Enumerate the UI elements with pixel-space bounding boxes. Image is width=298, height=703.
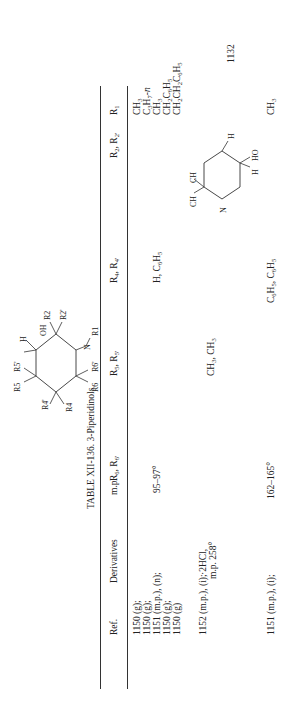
label-r4prime: R4'	[41, 399, 50, 410]
row3-r4: H, C6H5	[152, 252, 163, 283]
row5-ref: 1150 (g)	[172, 603, 183, 635]
row6-struct-ch3-h: CH	[189, 172, 198, 183]
row6-r5: CH3, CH3	[206, 338, 217, 376]
table-title: TABLE XII-136. 3-Piperidinols	[86, 388, 97, 509]
row6-ref: 1152 (m.p.), (i);	[198, 574, 209, 635]
label-r5: R5	[13, 383, 22, 392]
header-r4: R4, R4'	[109, 258, 120, 283]
top-rule	[100, 86, 101, 689]
row6-struct-h-left: H	[251, 169, 260, 175]
label-r2prime: R2'	[59, 309, 68, 320]
header-derivatives: Derivatives	[109, 539, 120, 583]
row6-struct-ch3-top: CH	[189, 196, 198, 207]
label-r1: R1	[91, 327, 100, 336]
label-r4: R4	[65, 403, 74, 412]
row7-ref: 1151 (m.p.), (i);	[266, 574, 277, 635]
label-h: H	[19, 336, 28, 342]
row7-r1: CH3	[266, 99, 277, 115]
row7-mp: 162–165°	[266, 462, 277, 499]
row6-struct-ho: HO	[251, 149, 260, 161]
row5-r1: CH2CH2C6H5	[172, 62, 183, 115]
page-number: 1132	[226, 44, 237, 63]
header-rule	[127, 86, 128, 689]
row6-derivative-mp: m.p. 258°	[208, 542, 219, 579]
row3-mp: 95–97°	[152, 465, 163, 493]
header-r5: R5, R5'	[109, 351, 120, 376]
header-mp: m.p.	[109, 478, 120, 495]
rotated-page: R4' R4 OH H R2 R2' N R1 R5 R5' R6 R6' TA…	[0, 0, 298, 703]
row6-struct-n: N	[219, 207, 228, 213]
row7-r4: C6H5, C6H5	[266, 259, 277, 303]
row6-structure-diagram: CH CH H HO H N	[186, 113, 260, 233]
label-r2: R2	[43, 311, 52, 320]
label-r6prime: R6'	[91, 361, 100, 372]
row6-struct-h-bottom: H	[227, 133, 236, 139]
header-r2: R2, R2'	[109, 133, 120, 158]
label-oh: OH	[39, 324, 48, 336]
header-r1: R1	[109, 105, 120, 115]
label-n: N	[83, 344, 92, 350]
header-ref: Ref.	[109, 619, 120, 635]
label-r5prime: R5'	[13, 361, 22, 372]
